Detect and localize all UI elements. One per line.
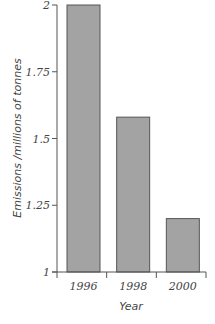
y-axis-title: Emissions /millions of tonnes: [11, 58, 24, 218]
x-tick-label: 1996: [70, 280, 98, 293]
bar-1998: [117, 117, 150, 272]
bar-2000: [166, 219, 199, 272]
y-tick-label: 1: [43, 266, 50, 279]
y-tick-label: 1.25: [26, 199, 51, 212]
emissions-bar-chart: 19961998200011.251.51.752 Emissions /mil…: [0, 0, 215, 324]
y-tick-label: 1.75: [26, 66, 51, 79]
bars: [67, 5, 199, 272]
bar-1996: [67, 5, 100, 272]
y-tick-label: 1.5: [33, 133, 51, 146]
y-tick-label: 2: [42, 0, 50, 12]
x-axis-title: Year: [119, 300, 144, 313]
x-tick-label: 1998: [119, 280, 147, 293]
x-tick-label: 2000: [168, 280, 197, 293]
